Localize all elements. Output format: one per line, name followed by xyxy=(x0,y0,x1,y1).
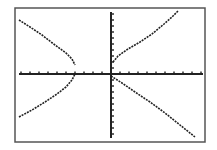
curve-upper-left xyxy=(19,20,75,65)
axes xyxy=(19,12,203,138)
calculator-graph-screen xyxy=(0,0,217,150)
curve-lower-left xyxy=(19,74,75,117)
graph-plot xyxy=(0,0,217,150)
curve-lower-right xyxy=(111,76,195,137)
curve-upper-right xyxy=(113,11,178,62)
